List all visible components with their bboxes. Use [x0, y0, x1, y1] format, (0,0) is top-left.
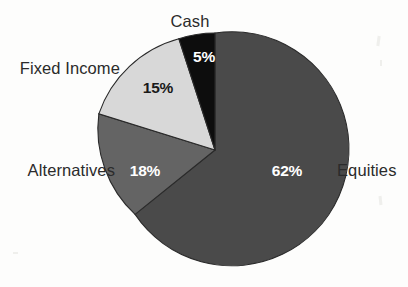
- slice-label-fixed-income: Fixed Income: [20, 59, 120, 77]
- slice-value-alternatives: 18%: [130, 162, 161, 179]
- pie-chart-screenshot: 62% 18% 15% 5% Cash Fixed Income Alterna…: [0, 0, 408, 287]
- slice-value-equities: 62%: [272, 162, 303, 179]
- slice-label-alternatives: Alternatives: [28, 161, 115, 179]
- slice-label-equities: Equities: [337, 161, 397, 179]
- slice-value-cash: 5%: [193, 48, 215, 65]
- slice-value-fixed-income: 15%: [143, 79, 174, 96]
- pie-svg: 62% 18% 15% 5% Cash Fixed Income Alterna…: [0, 0, 408, 287]
- asset-allocation-pie-chart: 62% 18% 15% 5% Cash Fixed Income Alterna…: [0, 0, 408, 287]
- slice-label-cash: Cash: [171, 12, 210, 30]
